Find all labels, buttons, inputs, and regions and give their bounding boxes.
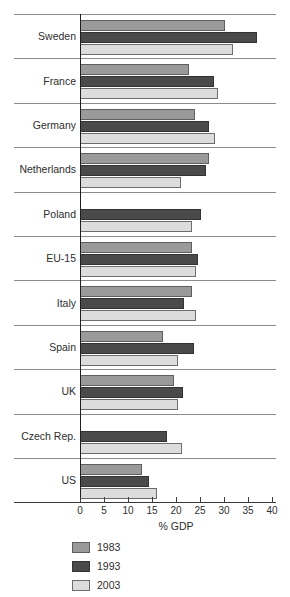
bar-italy-1993: [80, 298, 184, 309]
bar-france-1993: [80, 76, 214, 87]
category-separator: [14, 236, 276, 237]
category-separator: [14, 369, 276, 370]
bar-germany-1993: [80, 121, 209, 132]
bar-us-1983: [80, 464, 142, 475]
legend-item-1983: 1983: [72, 538, 120, 556]
bar-germany-2003: [80, 133, 215, 144]
x-tick-label: 20: [164, 505, 188, 517]
x-tick-label: 10: [116, 505, 140, 517]
category-separator: [14, 14, 276, 15]
bar-czech-rep--1993: [80, 431, 167, 442]
x-tick-label: 15: [140, 505, 164, 517]
bar-czech-rep--2003: [80, 443, 182, 454]
x-tick: [104, 497, 105, 503]
bar-eu-15-2003: [80, 266, 196, 277]
category-separator: [14, 147, 276, 148]
bar-sweden-1993: [80, 32, 257, 43]
bar-spain-2003: [80, 355, 178, 366]
category-label: Sweden: [8, 30, 76, 42]
category-label: Spain: [8, 341, 76, 353]
category-label: Netherlands: [8, 163, 76, 175]
x-axis-line: [14, 502, 276, 503]
legend-swatch-1993: [72, 561, 90, 572]
bar-uk-2003: [80, 399, 178, 410]
category-label: Italy: [8, 297, 76, 309]
bar-spain-1993: [80, 343, 194, 354]
bar-italy-1983: [80, 286, 192, 297]
x-tick-label: 40: [260, 505, 284, 517]
category-separator: [14, 192, 276, 193]
x-tick: [128, 497, 129, 503]
bar-netherlands-2003: [80, 177, 181, 188]
bar-poland-2003: [80, 221, 192, 232]
chart-legend: 198319932003: [72, 538, 120, 595]
bar-germany-1983: [80, 109, 195, 120]
category-label: US: [8, 474, 76, 486]
category-label: Germany: [8, 119, 76, 131]
legend-label-1983: 1983: [97, 541, 120, 553]
category-label: France: [8, 75, 76, 87]
x-tick-label: 30: [212, 505, 236, 517]
category-label: UK: [8, 385, 76, 397]
x-tick: [176, 497, 177, 503]
bar-chart: SwedenFranceGermanyNetherlandsPolandEU-1…: [0, 0, 290, 597]
x-axis-title: % GDP: [80, 520, 272, 532]
legend-label-2003: 2003: [97, 579, 120, 591]
bar-italy-2003: [80, 310, 196, 321]
category-separator: [14, 414, 276, 415]
category-label: EU-15: [8, 252, 76, 264]
category-label: Poland: [8, 208, 76, 220]
legend-item-2003: 2003: [72, 576, 120, 594]
bar-us-1993: [80, 476, 149, 487]
category-separator: [14, 58, 276, 59]
bar-sweden-1983: [80, 20, 225, 31]
x-tick: [80, 497, 81, 503]
category-separator: [14, 325, 276, 326]
bar-poland-1993: [80, 209, 201, 220]
bar-us-2003: [80, 488, 157, 499]
category-separator: [14, 458, 276, 459]
x-tick: [200, 497, 201, 503]
x-tick-label: 35: [236, 505, 260, 517]
x-tick: [224, 497, 225, 503]
bar-france-1983: [80, 64, 189, 75]
legend-item-1993: 1993: [72, 557, 120, 575]
category-separator: [14, 280, 276, 281]
category-separator: [14, 103, 276, 104]
bar-eu-15-1993: [80, 254, 198, 265]
legend-label-1993: 1993: [97, 560, 120, 572]
category-label: Czech Rep.: [8, 430, 76, 442]
legend-swatch-1983: [72, 542, 90, 553]
bar-france-2003: [80, 88, 218, 99]
x-tick-label: 0: [68, 505, 92, 517]
x-tick: [152, 497, 153, 503]
bar-netherlands-1983: [80, 153, 209, 164]
legend-swatch-2003: [72, 580, 90, 591]
bar-spain-1983: [80, 331, 163, 342]
x-tick: [248, 497, 249, 503]
zero-axis-line: [80, 14, 81, 502]
plot-area: SwedenFranceGermanyNetherlandsPolandEU-1…: [0, 0, 290, 510]
bar-uk-1993: [80, 387, 183, 398]
bar-netherlands-1993: [80, 165, 206, 176]
x-tick: [272, 497, 273, 503]
bar-sweden-2003: [80, 44, 233, 55]
bar-eu-15-1983: [80, 242, 192, 253]
x-tick-label: 25: [188, 505, 212, 517]
bar-uk-1983: [80, 375, 174, 386]
x-tick-label: 5: [92, 505, 116, 517]
